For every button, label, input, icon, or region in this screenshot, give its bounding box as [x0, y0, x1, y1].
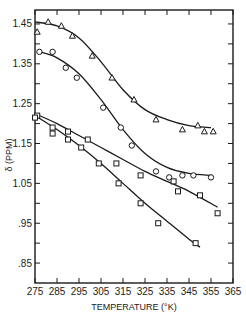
- y-tick-label: .95: [18, 218, 32, 229]
- square-point: [66, 129, 71, 134]
- square-point: [171, 179, 176, 184]
- circle-point: [50, 49, 55, 54]
- triangle-point: [153, 116, 159, 122]
- square-point: [33, 115, 38, 120]
- fit-line-squares-upper: [35, 114, 218, 208]
- circle-point: [208, 175, 213, 180]
- x-tick-label: 275: [27, 286, 44, 297]
- fit-lines: [35, 22, 218, 247]
- circle-point: [63, 65, 68, 70]
- triangle-point: [109, 75, 115, 81]
- square-point: [138, 201, 143, 206]
- circle-point: [37, 49, 42, 54]
- triangle-point: [210, 128, 216, 134]
- x-tick-label: 355: [203, 286, 220, 297]
- x-tick-label: 335: [159, 286, 176, 297]
- y-tick-label: 1.25: [13, 98, 33, 109]
- circle-point: [101, 105, 106, 110]
- square-point: [215, 211, 220, 216]
- triangle-point: [45, 19, 51, 25]
- triangle-point: [69, 33, 75, 39]
- x-tick-label: 285: [49, 286, 66, 297]
- square-point: [176, 189, 181, 194]
- square-point: [116, 181, 121, 186]
- y-tick-label: 1.05: [13, 178, 33, 189]
- fit-line-triangles: [35, 22, 211, 128]
- triangle-point: [179, 126, 185, 132]
- square-point: [138, 173, 143, 178]
- square-point: [79, 145, 84, 150]
- square-point: [198, 193, 203, 198]
- circle-point: [118, 125, 123, 130]
- x-tick-label: 305: [93, 286, 110, 297]
- circle-point: [153, 169, 158, 174]
- y-ticks: .85.951.051.151.251.351.45: [13, 18, 233, 268]
- square-point: [114, 161, 119, 166]
- square-point: [85, 137, 90, 142]
- square-point: [50, 125, 55, 130]
- circle-point: [191, 173, 196, 178]
- x-tick-label: 315: [115, 286, 132, 297]
- square-point: [156, 221, 161, 226]
- square-point: [66, 137, 71, 142]
- y-axis-label: δ (PPM): [4, 138, 14, 171]
- x-tick-label: 325: [137, 286, 154, 297]
- circle-point: [74, 75, 79, 80]
- x-tick-label: 295: [71, 286, 88, 297]
- square-point: [96, 161, 101, 166]
- y-tick-label: 1.35: [13, 58, 33, 69]
- triangle-point: [195, 122, 201, 128]
- square-point: [193, 241, 198, 246]
- x-axis-label: TEMPERATURE (°K): [91, 302, 176, 312]
- chart: 275285295305315325335345355365 .85.951.0…: [0, 0, 246, 318]
- x-tick-label: 365: [225, 286, 242, 297]
- y-tick-label: 1.15: [13, 138, 33, 149]
- triangle-point: [58, 23, 64, 29]
- circle-point: [180, 173, 185, 178]
- x-ticks: 275285295305315325335345355365: [27, 10, 242, 297]
- square-point: [50, 131, 55, 136]
- circle-point: [129, 143, 134, 148]
- triangle-point: [201, 128, 207, 134]
- y-tick-label: .85: [18, 258, 32, 269]
- y-tick-label: 1.45: [13, 18, 33, 29]
- x-tick-label: 345: [181, 286, 198, 297]
